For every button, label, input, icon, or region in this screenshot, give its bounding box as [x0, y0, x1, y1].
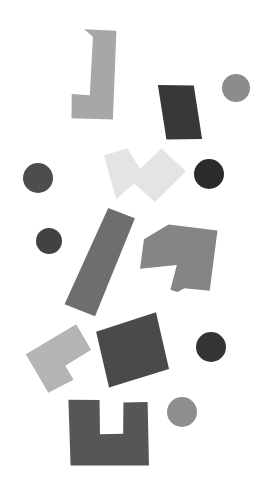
circle-bottom-right-dark	[196, 332, 226, 362]
abstract-shape-illustration	[0, 0, 279, 494]
circle-top-right	[222, 74, 250, 102]
circle-bottom-mid	[167, 397, 197, 427]
circle-mid-left	[23, 163, 53, 193]
circle-left-lower	[36, 228, 62, 254]
circle-mid-right-dark	[194, 159, 224, 189]
shape-canvas-container	[0, 0, 279, 494]
